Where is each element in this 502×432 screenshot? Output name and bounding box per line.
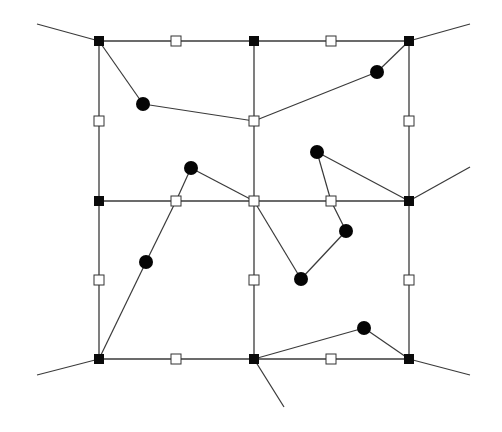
point-dot-icon: [136, 97, 150, 111]
mid-node-square-icon: [404, 275, 414, 285]
mid-node-square-icon: [171, 354, 181, 364]
path-edge: [254, 328, 364, 359]
path-edge: [99, 262, 146, 359]
corner-node-square-icon: [404, 196, 414, 206]
point-dot-icon: [370, 65, 384, 79]
external-edge: [409, 359, 470, 375]
path-edge: [254, 72, 377, 121]
mid-node-square-icon: [94, 116, 104, 126]
corner-node-square-icon: [404, 354, 414, 364]
corner-node-square-icon: [404, 36, 414, 46]
mid-node-square-icon: [326, 196, 336, 206]
point-dot-icon: [139, 255, 153, 269]
external-edge: [37, 359, 99, 375]
path-edge: [254, 201, 301, 279]
mid-node-square-icon: [249, 275, 259, 285]
external-edge: [254, 359, 284, 407]
corner-node-square-icon: [94, 196, 104, 206]
corner-node-square-icon: [94, 354, 104, 364]
point-dot-icon: [357, 321, 371, 335]
mesh-diagram: [0, 0, 502, 432]
point-dot-icon: [184, 161, 198, 175]
mid-node-square-icon: [404, 116, 414, 126]
mid-node-square-icon: [249, 116, 259, 126]
path-edge: [191, 168, 254, 201]
mid-node-square-icon: [326, 36, 336, 46]
mid-node-square-icon: [326, 354, 336, 364]
path-edge: [99, 41, 143, 104]
path-edge: [317, 152, 331, 201]
point-dot-icon: [294, 272, 308, 286]
mid-node-square-icon: [171, 36, 181, 46]
point-dot-icon: [339, 224, 353, 238]
corner-node-square-icon: [249, 36, 259, 46]
path-edge: [146, 201, 176, 262]
path-edge: [364, 328, 409, 359]
path-edge: [143, 104, 254, 121]
mid-node-square-icon: [94, 275, 104, 285]
mid-node-square-icon: [171, 196, 181, 206]
external-edge: [409, 167, 470, 201]
corner-node-square-icon: [249, 354, 259, 364]
corner-node-square-icon: [94, 36, 104, 46]
mid-node-square-icon: [249, 196, 259, 206]
path-edge: [301, 231, 346, 279]
path-edge: [317, 152, 409, 201]
point-dot-icon: [310, 145, 324, 159]
external-edge: [409, 24, 470, 41]
external-edge: [37, 24, 99, 41]
